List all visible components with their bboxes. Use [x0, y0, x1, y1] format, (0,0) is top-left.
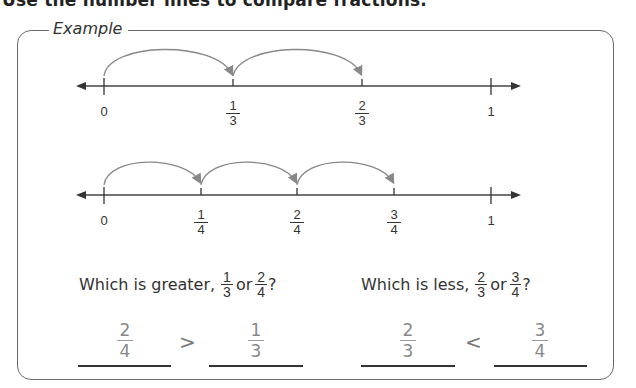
jump-arrow-icon	[201, 162, 296, 185]
answer-right-fraction: 3 4	[520, 320, 560, 361]
question-greater: Which is greater, 1 3 or 2 4 ?	[79, 270, 277, 299]
answer-right-fraction: 1 3	[236, 320, 276, 361]
fraction: 3 4	[510, 270, 522, 299]
numerator: 1	[221, 270, 233, 285]
jump-arrow-icon	[104, 49, 232, 76]
denominator: 4	[197, 223, 204, 237]
left-arrow-icon	[76, 191, 86, 199]
jump-arrow-icon	[297, 162, 393, 185]
answer-blank[interactable]	[361, 365, 455, 367]
tick-label-one-fourth: 1 4	[186, 208, 216, 237]
numerator: 3	[532, 320, 549, 341]
comparison-symbol: <	[465, 330, 482, 354]
answer-blank[interactable]	[209, 365, 303, 367]
denominator: 3	[403, 341, 414, 361]
denominator: 3	[477, 285, 485, 299]
right-arrow-icon	[511, 82, 521, 90]
numerator: 1	[248, 320, 265, 341]
tick-label-1: 1	[476, 213, 506, 228]
number-line-thirds	[76, 49, 521, 95]
tick-label-one-third: 1 3	[218, 99, 248, 128]
number-line-fourths	[76, 162, 521, 204]
numerator: 1	[226, 99, 239, 114]
denominator: 4	[120, 341, 131, 361]
denominator: 4	[293, 223, 300, 237]
fraction: 1 3	[221, 270, 233, 299]
jump-arrow-icon	[233, 49, 361, 76]
tick-label-two-thirds: 2 3	[347, 99, 377, 128]
numerator: 2	[255, 270, 267, 285]
tick-label-1: 1	[476, 104, 506, 119]
answer-left-fraction: 2 4	[105, 320, 145, 361]
connector-text: or	[236, 275, 252, 294]
numerator: 2	[400, 320, 417, 341]
denominator: 4	[535, 341, 546, 361]
answer-left-fraction: 2 3	[388, 320, 428, 361]
right-arrow-icon	[511, 191, 521, 199]
question-less: Which is less, 2 3 or 3 4 ?	[361, 270, 531, 299]
fraction: 2 3	[475, 270, 487, 299]
numerator: 2	[290, 208, 303, 223]
fraction: 2 4	[255, 270, 267, 299]
answer-blank[interactable]	[494, 365, 587, 367]
denominator: 3	[223, 285, 231, 299]
tick-label-0: 0	[89, 104, 119, 119]
denominator: 4	[257, 285, 265, 299]
left-arrow-icon	[76, 82, 86, 90]
tick-label-two-fourths: 2 4	[282, 208, 312, 237]
tick-label-three-fourths: 3 4	[379, 208, 409, 237]
numerator: 2	[117, 320, 134, 341]
question-mark: ?	[522, 275, 531, 294]
comparison-symbol: >	[179, 330, 196, 354]
answer-blank[interactable]	[78, 365, 171, 367]
tick-label-0: 0	[89, 213, 119, 228]
connector-text: or	[490, 275, 506, 294]
denominator: 4	[390, 223, 397, 237]
denominator: 3	[251, 341, 262, 361]
numerator: 2	[355, 99, 368, 114]
numerator: 2	[475, 270, 487, 285]
denominator: 3	[229, 114, 236, 128]
numerator: 3	[510, 270, 522, 285]
jump-arrow-icon	[104, 162, 200, 185]
question-mark: ?	[268, 275, 277, 294]
numerator: 3	[387, 208, 400, 223]
question-text: Which is less,	[361, 275, 469, 294]
numerator: 1	[194, 208, 207, 223]
question-text: Which is greater,	[79, 275, 215, 294]
denominator: 4	[512, 285, 520, 299]
denominator: 3	[358, 114, 365, 128]
